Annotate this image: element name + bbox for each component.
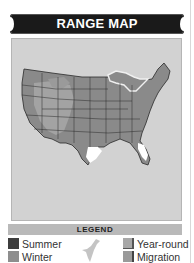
legend-label: Year-round [137,238,189,250]
migration-swatch [123,251,134,262]
legend-header: LEGEND [8,224,182,235]
legend-item-summer: Summer [8,238,62,250]
range-map [11,38,182,221]
legend-label: Migration [137,251,180,263]
us-map-graphic [12,39,183,222]
bird-silhouette-icon [80,238,102,263]
year-round-swatch [123,238,134,249]
winter-swatch [8,251,19,262]
legend-item-year-round: Year-round [123,238,189,250]
page-edge-divider [190,0,191,263]
legend-label: Winter [22,251,52,263]
range-map-title: RANGE MAP [10,14,184,34]
summer-swatch [8,238,19,249]
legend-label: Summer [22,238,62,250]
legend-item-winter: Winter [8,251,52,263]
legend-item-migration: Migration [123,251,180,263]
